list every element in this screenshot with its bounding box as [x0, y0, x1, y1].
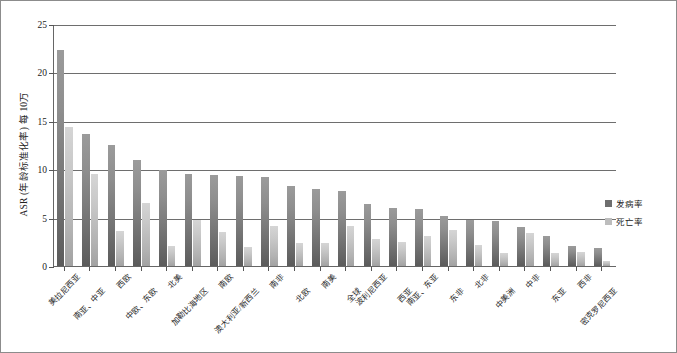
bar-group[interactable] — [466, 25, 482, 266]
bar-group[interactable] — [57, 25, 73, 266]
bar-incidence[interactable] — [543, 236, 551, 266]
x-tick-label: 南亚、中亚 — [71, 285, 107, 322]
bar-mortality[interactable] — [475, 245, 483, 266]
bar-group[interactable] — [210, 25, 226, 266]
bar-incidence[interactable] — [236, 176, 244, 266]
bar-incidence[interactable] — [159, 170, 167, 266]
bar-incidence[interactable] — [82, 134, 90, 266]
bar-incidence[interactable] — [568, 246, 576, 266]
bar-mortality[interactable] — [65, 127, 73, 266]
bar-incidence[interactable] — [261, 177, 269, 266]
x-tick-label: 密克罗尼西亚 — [577, 285, 619, 328]
bar-group[interactable] — [543, 25, 559, 266]
x-tick-label: 东非 — [446, 285, 465, 304]
bar-group[interactable] — [159, 25, 175, 266]
x-tick-label: 加勒比海地区 — [168, 285, 210, 328]
bar-group[interactable] — [312, 25, 328, 266]
bar-mortality[interactable] — [551, 253, 559, 266]
bar-mortality[interactable] — [270, 226, 278, 266]
bar-mortality[interactable] — [219, 232, 227, 266]
bar-mortality[interactable] — [449, 230, 457, 266]
bar-incidence[interactable] — [415, 209, 423, 266]
x-tick-label: 北非 — [472, 271, 491, 290]
x-tick-label: 中美洲 — [492, 285, 517, 310]
bar-group[interactable] — [261, 25, 277, 266]
y-axis-title: ASR (年龄标准化率) 每 10万 — [16, 44, 30, 264]
bar-incidence[interactable] — [210, 175, 218, 266]
x-axis-line — [53, 266, 616, 267]
bar-group[interactable] — [415, 25, 431, 266]
bar-series-container — [54, 25, 616, 266]
x-tick-label: 南非 — [267, 271, 286, 290]
bar-incidence[interactable] — [440, 216, 448, 266]
legend-item-incidence[interactable]: 发病率 — [605, 197, 643, 209]
x-tick-label: 美拉尼西亚 — [46, 271, 82, 308]
bar-incidence[interactable] — [338, 191, 346, 267]
bar-group[interactable] — [364, 25, 380, 266]
bar-mortality[interactable] — [244, 247, 252, 266]
bar-mortality[interactable] — [142, 203, 150, 266]
bar-group[interactable] — [287, 25, 303, 266]
bar-group[interactable] — [236, 25, 252, 266]
bar-incidence[interactable] — [57, 50, 65, 266]
x-tick-label: 东亚 — [549, 285, 568, 304]
bar-mortality[interactable] — [424, 236, 432, 266]
bar-incidence[interactable] — [364, 204, 372, 266]
x-axis-labels: 美拉尼西亚南亚、中亚西欧中欧、东欧北美加勒比海地区南欧澳大利亚/新西兰南非北欧南… — [53, 269, 616, 353]
bar-incidence[interactable] — [517, 227, 525, 266]
chart-figure: ASR (年龄标准化率) 每 10万 0510152025 美拉尼西亚南亚、中亚… — [0, 0, 677, 353]
legend-label-mortality: 死亡率 — [616, 215, 643, 227]
bar-mortality[interactable] — [603, 261, 611, 266]
bar-mortality[interactable] — [91, 174, 99, 266]
chart-legend: 发病率 死亡率 — [605, 197, 643, 233]
bar-mortality[interactable] — [296, 243, 304, 266]
bar-group[interactable] — [108, 25, 124, 266]
bar-mortality[interactable] — [398, 242, 406, 266]
bar-mortality[interactable] — [347, 226, 355, 266]
bar-group[interactable] — [440, 25, 456, 266]
bar-mortality[interactable] — [577, 252, 585, 266]
x-tick-label: 中非 — [523, 271, 542, 290]
bar-incidence[interactable] — [185, 174, 193, 266]
y-tick-label: 15 — [38, 117, 48, 127]
x-tick-label: 北欧 — [293, 285, 312, 304]
bar-group[interactable] — [517, 25, 533, 266]
x-tick-label: 中欧、东欧 — [122, 285, 158, 322]
bar-incidence[interactable] — [108, 145, 116, 266]
bar-incidence[interactable] — [492, 221, 500, 266]
bar-mortality[interactable] — [193, 220, 201, 266]
bar-incidence[interactable] — [287, 186, 295, 266]
x-tick-label: 北美 — [165, 271, 184, 290]
bar-group[interactable] — [492, 25, 508, 266]
y-tick-label: 5 — [42, 214, 47, 224]
bar-group[interactable] — [185, 25, 201, 266]
bar-mortality[interactable] — [526, 233, 534, 266]
bar-group[interactable] — [133, 25, 149, 266]
bar-mortality[interactable] — [372, 239, 380, 266]
y-tick-label: 20 — [38, 68, 48, 78]
bar-mortality[interactable] — [168, 246, 176, 266]
bar-mortality[interactable] — [500, 253, 508, 266]
legend-swatch-mortality-icon — [605, 218, 612, 225]
bar-group[interactable] — [338, 25, 354, 266]
x-tick-label: 澳大利亚/新西兰 — [212, 285, 261, 335]
bar-incidence[interactable] — [466, 220, 474, 266]
bar-incidence[interactable] — [312, 189, 320, 266]
bar-incidence[interactable] — [594, 248, 602, 266]
x-tick-label: 南欧 — [216, 271, 235, 290]
x-tick-label: 西非 — [574, 271, 593, 290]
legend-item-mortality[interactable]: 死亡率 — [605, 215, 643, 227]
y-tick-label: 0 — [42, 262, 47, 272]
bar-incidence[interactable] — [389, 208, 397, 266]
x-tick-label: 西欧 — [114, 271, 133, 290]
bar-mortality[interactable] — [321, 243, 329, 266]
bar-group[interactable] — [82, 25, 98, 266]
bar-incidence[interactable] — [133, 160, 141, 266]
bar-mortality[interactable] — [116, 231, 124, 266]
bar-group[interactable] — [389, 25, 405, 266]
x-tick-label: 南美 — [318, 271, 337, 290]
legend-label-incidence: 发病率 — [616, 197, 643, 209]
bar-group[interactable] — [568, 25, 584, 266]
y-tick-label: 10 — [38, 165, 48, 175]
y-tick-mark — [49, 267, 54, 268]
